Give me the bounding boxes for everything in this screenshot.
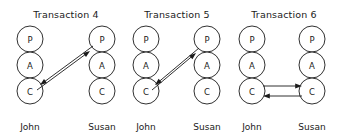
node-label: P (99, 35, 104, 45)
column-susan: PACSusan (193, 26, 220, 132)
node-label: C (204, 87, 210, 97)
actor-label-john: John (241, 122, 262, 132)
actor-label-john: John (19, 122, 40, 132)
transaction-diagram: Transaction 4PACJohnPACSusanTransaction … (0, 0, 340, 138)
node-label: C (309, 87, 315, 97)
node-label: A (27, 61, 33, 71)
panel-transaction-4: Transaction 4PACJohnPACSusan (17, 9, 116, 133)
arrow-head-susan-p-to-john-c (40, 79, 47, 85)
column-john: PACJohn (17, 26, 43, 132)
node-label: C (99, 87, 105, 97)
node-label: P (143, 35, 148, 45)
actor-label-susan: Susan (298, 122, 325, 132)
actor-label-susan: Susan (193, 122, 220, 132)
node-label: P (309, 35, 314, 45)
node-label: C (143, 87, 149, 97)
actor-label-john: John (135, 122, 156, 132)
actor-label-susan: Susan (88, 122, 115, 132)
node-label: A (309, 61, 315, 71)
node-label: P (204, 35, 209, 45)
node-label: A (249, 61, 255, 71)
panel-transaction-5: Transaction 5PACJohnPACSusan (133, 9, 221, 133)
column-john: PACJohn (239, 26, 265, 132)
node-label: A (99, 61, 105, 71)
column-susan: PACSusan (298, 26, 325, 132)
node-label: A (143, 61, 149, 71)
panel-title: Transaction 4 (32, 9, 98, 20)
node-label: C (249, 87, 255, 97)
node-label: P (249, 35, 254, 45)
arrow-head-john-c-to-susan-p (83, 51, 90, 57)
node-label: A (204, 61, 210, 71)
arrow-line-john-c-to-susan-p (37, 54, 86, 90)
column-john: PACJohn (133, 26, 159, 132)
node-label: P (27, 35, 32, 45)
node-label: C (27, 87, 33, 97)
column-susan: PACSusan (88, 26, 115, 132)
arrow-line-susan-p-to-john-c (159, 48, 199, 82)
panel-title: Transaction 5 (143, 9, 209, 20)
arrow-line-susan-p-to-john-c (44, 46, 93, 82)
panel-title: Transaction 6 (250, 9, 316, 20)
diagram-canvas: Transaction 4PACJohnPACSusanTransaction … (0, 0, 340, 138)
panel-transaction-6: Transaction 6PACJohnPACSusan (239, 9, 326, 133)
